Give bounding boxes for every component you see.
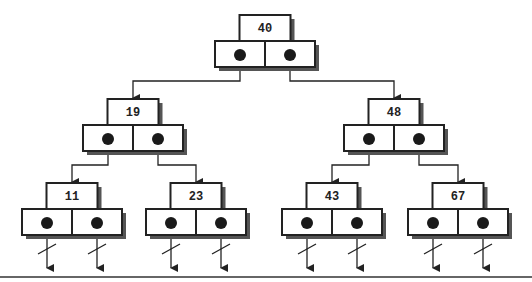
node-key: 19 <box>126 106 140 120</box>
left-pointer-dot-icon <box>301 217 313 229</box>
tree-node-67: 67 <box>408 183 512 239</box>
right-pointer-dot-icon <box>215 217 227 229</box>
tree-node-19: 19 <box>83 99 187 155</box>
left-pointer-dot-icon <box>234 49 246 61</box>
tree-node-43: 43 <box>282 183 386 239</box>
right-pointer-dot-icon <box>152 133 164 145</box>
tree-node-48: 48 <box>344 99 448 155</box>
tree-nodes: 40194811234367 <box>22 15 512 239</box>
node-key: 67 <box>451 190 465 204</box>
binary-tree-diagram: 40194811234367 <box>0 0 532 282</box>
left-pointer-dot-icon <box>41 217 53 229</box>
node-key: 43 <box>325 190 339 204</box>
right-pointer-dot-icon <box>351 217 363 229</box>
tree-node-11: 11 <box>22 183 126 239</box>
node-key: 11 <box>65 190 79 204</box>
left-pointer-dot-icon <box>363 133 375 145</box>
node-key: 40 <box>258 22 272 36</box>
right-pointer-dot-icon <box>91 217 103 229</box>
right-pointer-dot-icon <box>413 133 425 145</box>
right-pointer-dot-icon <box>477 217 489 229</box>
left-pointer-dot-icon <box>165 217 177 229</box>
node-key: 23 <box>189 190 203 204</box>
tree-node-40: 40 <box>215 15 319 71</box>
node-key: 48 <box>387 106 401 120</box>
right-pointer-dot-icon <box>284 49 296 61</box>
left-pointer-dot-icon <box>102 133 114 145</box>
tree-node-23: 23 <box>146 183 250 239</box>
left-pointer-dot-icon <box>427 217 439 229</box>
